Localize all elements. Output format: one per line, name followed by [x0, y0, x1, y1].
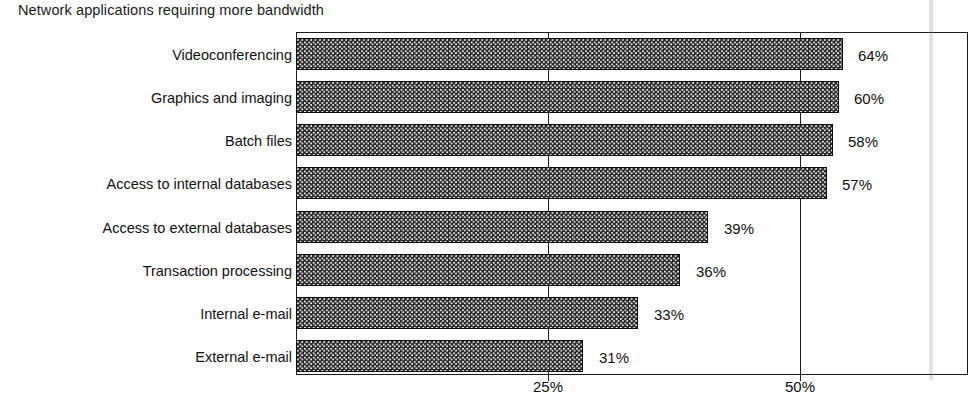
bar-value-label: 31% — [599, 350, 629, 365]
bar — [296, 167, 827, 199]
bar — [296, 38, 843, 70]
bar-value-label: 64% — [858, 48, 888, 63]
bar — [296, 340, 583, 372]
chart-title: Network applications requiring more band… — [18, 2, 324, 18]
x-tick-label: 25% — [533, 379, 563, 394]
category-label: Batch files — [225, 134, 292, 149]
bar — [296, 254, 680, 286]
category-label: Access to internal databases — [107, 177, 292, 192]
bar — [296, 81, 839, 113]
bar — [296, 124, 833, 156]
category-label: Access to external databases — [103, 221, 292, 236]
category-label: Videoconferencing — [172, 48, 292, 63]
bar — [296, 211, 708, 243]
bar-chart: Network applications requiring more band… — [0, 0, 973, 408]
bar-value-label: 33% — [654, 307, 684, 322]
category-label: External e-mail — [195, 350, 292, 365]
bar — [296, 297, 638, 329]
x-tick-label: 50% — [785, 379, 815, 394]
bar-value-label: 58% — [848, 134, 878, 149]
bar-value-label: 57% — [842, 177, 872, 192]
category-label: Internal e-mail — [200, 307, 292, 322]
bar-value-label: 36% — [696, 264, 726, 279]
category-label: Transaction processing — [143, 264, 292, 279]
category-label: Graphics and imaging — [151, 91, 292, 106]
bar-value-label: 39% — [724, 221, 754, 236]
bar-value-label: 60% — [854, 91, 884, 106]
